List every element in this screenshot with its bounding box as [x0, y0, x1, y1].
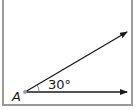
angle-label: 30° [48, 77, 71, 92]
vertex-point [23, 90, 27, 94]
vertex-label: A [11, 89, 21, 104]
angle-arc [37, 85, 39, 92]
angle-diagram: A 30° [0, 0, 138, 111]
upper-ray [25, 32, 127, 92]
